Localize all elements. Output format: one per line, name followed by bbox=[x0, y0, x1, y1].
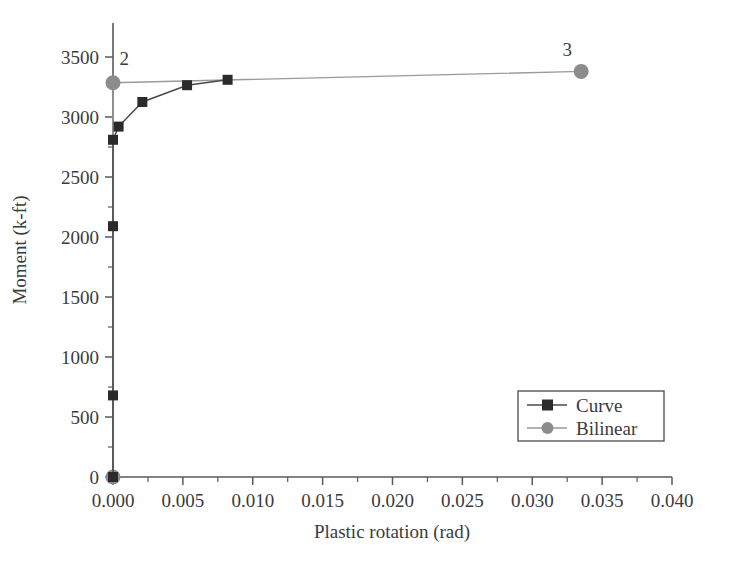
y-tick-label: 1000 bbox=[61, 347, 99, 368]
x-tick-label: 0.005 bbox=[162, 490, 205, 511]
y-tick-label: 3500 bbox=[61, 47, 99, 68]
curve-data-point bbox=[223, 75, 233, 85]
curve-data-point bbox=[108, 472, 118, 482]
y-tick-label: 2500 bbox=[61, 167, 99, 188]
curve-data-point bbox=[137, 97, 147, 107]
legend-marker-square-icon bbox=[542, 400, 553, 411]
curve-data-point bbox=[182, 80, 192, 90]
y-tick-label: 3000 bbox=[61, 107, 99, 128]
data-point-label: 2 bbox=[119, 48, 129, 69]
series-bilinear bbox=[106, 64, 589, 485]
data-point-label: 3 bbox=[562, 39, 572, 60]
curve-data-point bbox=[114, 122, 124, 132]
x-tick-label: 0.000 bbox=[92, 490, 135, 511]
y-tick-label: 0 bbox=[90, 467, 100, 488]
legend: Curve Bilinear bbox=[518, 391, 664, 441]
y-tick-label: 1500 bbox=[61, 287, 99, 308]
x-axis-title: Plastic rotation (rad) bbox=[314, 521, 470, 543]
x-tick-label: 0.040 bbox=[651, 490, 694, 511]
bilinear-data-point bbox=[574, 64, 589, 79]
legend-label-bilinear: Bilinear bbox=[576, 418, 638, 439]
bilinear-data-point bbox=[106, 75, 121, 90]
x-tick-label: 0.025 bbox=[441, 490, 484, 511]
chart-container: 0500100015002000250030003500 0.0000.0050… bbox=[0, 0, 734, 568]
y-tick-label: 500 bbox=[71, 407, 100, 428]
moment-rotation-chart: 0500100015002000250030003500 0.0000.0050… bbox=[0, 0, 734, 568]
curve-data-point bbox=[108, 390, 118, 400]
bilinear-line bbox=[113, 71, 581, 477]
curve-line bbox=[113, 80, 228, 477]
series-curve bbox=[108, 75, 233, 482]
y-axis-ticks: 0500100015002000250030003500 bbox=[61, 47, 113, 488]
curve-data-point bbox=[108, 221, 118, 231]
legend-label-curve: Curve bbox=[576, 395, 622, 416]
x-tick-label: 0.015 bbox=[301, 490, 344, 511]
curve-data-point bbox=[108, 135, 118, 145]
legend-marker-circle-icon bbox=[542, 422, 554, 434]
y-tick-label: 2000 bbox=[61, 227, 99, 248]
x-tick-label: 0.035 bbox=[581, 490, 624, 511]
x-tick-label: 0.020 bbox=[371, 490, 414, 511]
x-tick-label: 0.010 bbox=[231, 490, 274, 511]
x-tick-label: 0.030 bbox=[511, 490, 554, 511]
x-axis-ticks: 0.0000.0050.0100.0150.0200.0250.0300.035… bbox=[92, 477, 694, 511]
y-axis-title: Moment (k-ft) bbox=[9, 195, 31, 304]
point-annotations: 23 bbox=[119, 39, 572, 70]
